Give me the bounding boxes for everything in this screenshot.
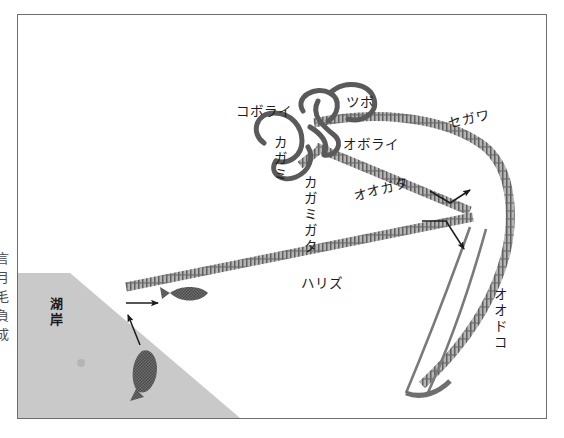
label-harisu: ハリズ — [301, 272, 343, 292]
oodoko-contour — [406, 227, 486, 397]
label-tsubo: ツボ — [346, 91, 374, 111]
label-kagamigata: カガミガタ — [300, 175, 320, 255]
fishing-line-diagram — [18, 15, 546, 418]
label-kagami: カガミ — [270, 135, 290, 183]
lakeshore-shape — [18, 273, 240, 418]
fish-upper — [160, 287, 208, 301]
label-oborai: オボライ — [343, 133, 399, 153]
label-koborai: コボライ — [236, 100, 292, 120]
label-lakeshore: 湖岸 — [46, 297, 65, 329]
scanned-figure-page: 言月毛負成 — [0, 0, 564, 438]
label-oodoko: オオドコ — [490, 287, 510, 351]
page-edge-kanji-column: 言月毛負成 — [0, 252, 14, 347]
figure-frame: コボライ ツボ セガワ オボライ カガミ カガミガタ オオガタ ハリズ オオドコ… — [17, 14, 547, 419]
